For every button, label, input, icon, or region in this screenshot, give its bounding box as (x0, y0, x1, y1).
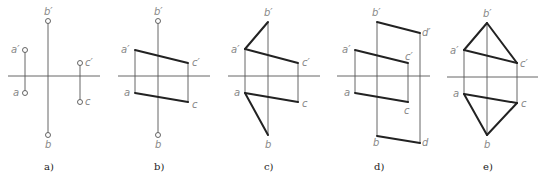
caption-d: d) (374, 161, 384, 172)
label-c: c (404, 105, 410, 116)
label-c: c (192, 99, 198, 110)
label-a-prime: a′ (450, 45, 459, 56)
line-a-c (355, 93, 408, 102)
label-a-prime: a′ (121, 44, 130, 55)
caption-b: b) (154, 161, 164, 172)
label-a-prime: a′ (231, 44, 240, 55)
point-a-prime (23, 48, 28, 53)
point-c (78, 100, 83, 105)
line-a-prime-b-prime (245, 22, 268, 49)
projection-diagrams: b′ a′ c′ a c b a) b′ a′ c′ a c b b) b′ a (0, 0, 542, 181)
label-c: c (302, 98, 308, 109)
label-d-prime: d′ (422, 27, 431, 38)
label-b: b (155, 139, 161, 150)
label-c-prime: c′ (192, 57, 200, 68)
point-b-prime (156, 19, 161, 24)
label-a: a (13, 87, 19, 98)
line-a-prime-c-prime (355, 50, 408, 63)
label-a: a (344, 87, 350, 98)
label-c: c (85, 96, 91, 107)
figure-c: b′ a′ c′ a c b c) (228, 7, 320, 172)
label-b: b (45, 139, 51, 150)
figure-d: b′ d′ a′ c′ a c b d d) (337, 7, 431, 172)
label-c-prime: c′ (520, 58, 528, 69)
caption-a: a) (44, 161, 54, 172)
figure-e: b′ a′ c′ a c b e) (447, 8, 538, 172)
line-a-c (245, 93, 298, 102)
label-b-prime: b′ (372, 7, 381, 18)
label-c-prime: c′ (85, 57, 93, 68)
label-d: d (422, 137, 429, 148)
line-b-d (377, 136, 420, 143)
line-a-b (245, 93, 268, 135)
label-a: a (124, 87, 130, 98)
line-b-prime-d-prime (377, 22, 420, 33)
line-a-prime-c-prime (245, 49, 298, 63)
label-a: a (453, 88, 459, 99)
line-a-c (135, 93, 188, 102)
label-c: c (521, 98, 527, 109)
label-b: b (373, 137, 379, 148)
figure-b: b′ a′ c′ a c b b) (118, 6, 210, 172)
label-b-prime: b′ (154, 6, 163, 17)
label-c-prime: c′ (405, 51, 413, 62)
label-b-prime: b′ (483, 8, 492, 19)
label-a-prime: a′ (342, 44, 351, 55)
point-a (23, 91, 28, 96)
line-a-c (464, 94, 517, 103)
label-b-prime: b′ (44, 6, 53, 17)
caption-e: e) (483, 161, 493, 172)
point-b (46, 133, 51, 138)
point-b (156, 133, 161, 138)
caption-c: c) (264, 161, 274, 172)
label-a-prime: a′ (11, 44, 20, 55)
point-c-prime (78, 61, 83, 66)
point-b-prime (46, 19, 51, 24)
figure-a: b′ a′ c′ a c b a) (8, 6, 100, 172)
line-a-prime-c-prime (135, 50, 188, 63)
label-c-prime: c′ (302, 57, 310, 68)
label-b: b (484, 139, 490, 150)
label-a: a (234, 87, 240, 98)
label-b-prime: b′ (264, 7, 273, 18)
line-a-b (464, 94, 487, 135)
line-a-prime-b-prime (464, 23, 487, 50)
label-b: b (265, 139, 271, 150)
line-b-c (487, 103, 517, 135)
